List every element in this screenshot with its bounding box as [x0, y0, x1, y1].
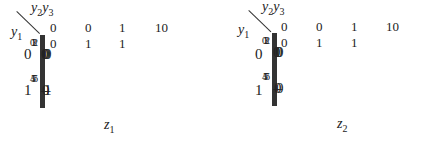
row-header: 0	[24, 46, 32, 63]
column-header: 0 1	[85, 20, 92, 52]
kmap-cell: 20	[44, 36, 45, 72]
kmap-cell: 20	[276, 34, 277, 70]
kmap-grid: 00 10 30 20 4– 50 7– 61	[40, 35, 45, 108]
column-header: 10	[386, 19, 399, 35]
cell-index: 6	[265, 71, 270, 82]
kmap-cell: 61	[44, 72, 45, 108]
cell-index: 2	[265, 35, 270, 46]
column-variable-label: y2y3	[262, 0, 284, 17]
map-title: z1	[104, 117, 114, 135]
column-variable-label: y2y3	[31, 0, 53, 18]
row-header: 0	[255, 46, 263, 63]
column-header: 1 1	[119, 20, 126, 52]
row-variable-label: y1	[11, 24, 22, 42]
row-header: 1	[24, 82, 32, 99]
column-header: 0 1	[316, 19, 323, 51]
cell-index: 2	[33, 37, 38, 48]
row-header: 1	[255, 82, 263, 99]
column-header: 10	[155, 20, 168, 36]
kmap-grid: 00 11 30 20 4– 50 7– 60	[272, 33, 277, 106]
kmap-cell: 60	[276, 70, 277, 106]
row-variable-label: y1	[238, 22, 249, 40]
column-header: 1 1	[351, 19, 358, 51]
map-title: z2	[337, 116, 347, 134]
cell-index: 6	[33, 73, 38, 84]
